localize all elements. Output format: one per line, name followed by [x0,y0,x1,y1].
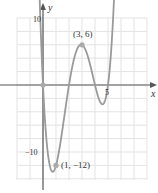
chart: y x 10 −10 5 (3, 6) (1, −12) [0,0,158,193]
x-tick-5: 5 [105,88,109,97]
y-tick-neg10: −10 [25,148,38,157]
x-axis-label: x [150,88,156,99]
y-tick-10: 10 [33,15,41,24]
min-point-label: (1, −12) [61,160,90,170]
max-point-label: (3, 6) [73,29,93,39]
data-point [79,42,84,47]
plot-area: y x 10 −10 5 (3, 6) (1, −12) [0,0,158,193]
data-point [40,82,45,87]
data-point [53,163,58,168]
function-curve [39,0,115,172]
y-axis-label: y [47,2,53,13]
